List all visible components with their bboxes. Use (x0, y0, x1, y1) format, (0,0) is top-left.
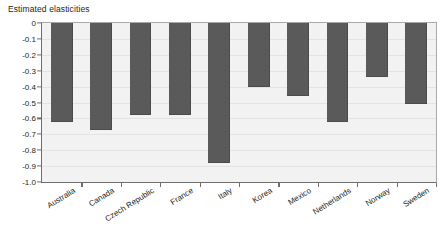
y-tick-label: -0.9 (22, 162, 36, 171)
y-tick-label: -0.6 (22, 114, 36, 123)
x-axis-labels: AustraliaCanadaCzech RepublicFranceItaly… (0, 186, 444, 248)
bar (90, 23, 112, 130)
y-tick-label: -0.7 (22, 130, 36, 139)
x-tick-label: Italy (217, 186, 234, 201)
x-tick-label: Sweden (402, 186, 431, 209)
x-tick-label: Norway (364, 186, 392, 208)
y-tick-label: -0.3 (22, 66, 36, 75)
bar (248, 23, 270, 87)
bar (327, 23, 349, 122)
y-tick-label: -0.5 (22, 98, 36, 107)
x-tick-label: Australia (45, 186, 76, 210)
bar (366, 23, 388, 77)
x-tick-label: Netherlands (311, 186, 352, 216)
bar (169, 23, 191, 115)
chart-title: Estimated elasticities (8, 4, 90, 14)
x-tick-label: Canada (87, 186, 116, 208)
bar (405, 23, 427, 104)
y-tick-label: -0.4 (22, 82, 36, 91)
x-tick-label: Korea (251, 186, 274, 205)
bar (130, 23, 152, 115)
bar (208, 23, 230, 163)
bar (51, 23, 73, 122)
x-tick-label: France (169, 186, 195, 207)
y-tick-label: -0.8 (22, 146, 36, 155)
bars-layer (42, 23, 436, 182)
chart-figure: Estimated elasticities 0-0.1-0.2-0.3-0.4… (0, 0, 444, 250)
x-tick-label: Mexico (287, 186, 313, 207)
y-axis-labels: 0-0.1-0.2-0.3-0.4-0.5-0.6-0.7-0.8-0.9-1.… (0, 22, 36, 183)
y-tick-label: -0.2 (22, 50, 36, 59)
bar (287, 23, 309, 96)
y-tick-label: -0.1 (22, 34, 36, 43)
